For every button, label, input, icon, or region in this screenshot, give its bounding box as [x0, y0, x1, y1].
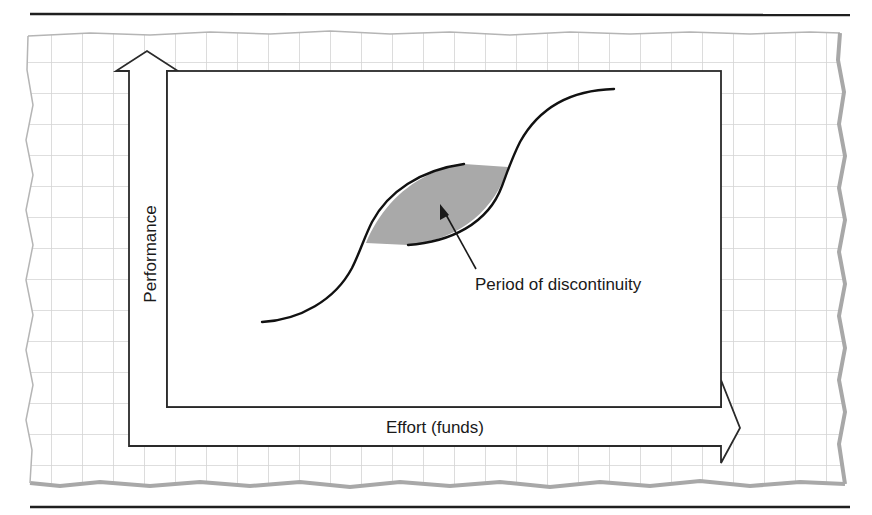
- x-axis-label: Effort (funds): [386, 418, 484, 438]
- discontinuity-annotation: Period of discontinuity: [475, 275, 641, 295]
- top-rule: [30, 14, 850, 15]
- s-curve-diagram: Performance Effort (funds) Period of dis…: [0, 0, 872, 515]
- y-axis-label: Performance: [141, 205, 161, 302]
